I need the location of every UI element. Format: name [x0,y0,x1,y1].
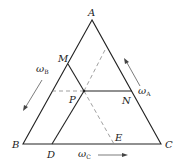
dashed-line-pe [84,91,114,144]
triangle-abc [23,20,161,144]
label-n: N [121,95,132,106]
diagram-svg: A B C M P N D E ωB ωA ωC [0,0,182,166]
arrowhead-omega-a-icon [124,58,129,64]
point-p [83,90,86,93]
arrowhead-omega-c-icon [122,153,128,157]
label-omega-b: ωB [36,63,49,75]
line-pm [68,64,84,91]
arrow-omega-a [126,61,140,86]
label-d: D [46,149,55,160]
label-e: E [114,132,123,143]
label-omega-a: ωA [138,85,151,97]
label-b: B [11,139,19,150]
dashed-line-to-ac [84,48,106,91]
label-omega-c: ωC [78,148,91,160]
line-pd [52,91,84,144]
label-c: C [165,139,173,150]
label-m: M [57,53,69,64]
arrow-omega-b [25,80,42,108]
arrowhead-omega-b-icon [23,105,28,111]
label-a: A [87,7,95,18]
label-p: P [68,94,76,105]
ternary-diagram: A B C M P N D E ωB ωA ωC [0,0,182,166]
